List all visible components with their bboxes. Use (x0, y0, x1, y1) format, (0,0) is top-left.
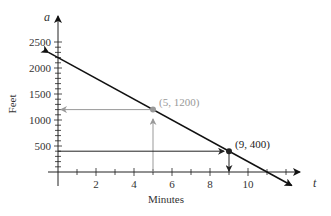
y-tick-label: 1000 (29, 114, 52, 126)
point-9-400 (226, 148, 232, 154)
y-tick-label: 2000 (29, 62, 52, 74)
point-label-9-400: (9, 400) (235, 138, 270, 151)
y-tick-label: 500 (35, 140, 52, 152)
x-tick-label: 6 (169, 178, 175, 190)
x-tick-label: 2 (93, 178, 99, 190)
y-tick-label: 1500 (29, 88, 52, 100)
guide-point-5-1200 (61, 110, 153, 172)
y-axis: 5001000150020002500 (29, 16, 62, 186)
x-variable-label: t (313, 176, 317, 190)
x-tick-label: 4 (131, 178, 137, 190)
point-label-5-1200: (5, 1200) (159, 96, 200, 109)
x-axis-title: Minutes (148, 193, 184, 205)
y-variable-label: a (44, 10, 50, 24)
point-5-1200 (150, 107, 156, 113)
data-line (49, 52, 292, 185)
y-tick-label: 2500 (29, 36, 52, 48)
x-tick-label: 10 (243, 178, 255, 190)
line-chart: 5001000150020002500 246810 (5, 1200) (9,… (0, 0, 331, 216)
y-axis-title: Feet (6, 95, 18, 114)
x-tick-label: 8 (207, 178, 213, 190)
guide-point-9-400 (58, 151, 229, 171)
x-axis: 246810 (48, 168, 300, 190)
